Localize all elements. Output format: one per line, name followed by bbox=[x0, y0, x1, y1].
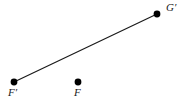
geometry-figure: F′ F G′ bbox=[0, 0, 189, 104]
figure-drawing-surface bbox=[0, 0, 189, 104]
point-marker-g-prime bbox=[154, 11, 161, 18]
point-label-g-prime: G′ bbox=[166, 2, 176, 13]
segment-f-prime-to-g-prime bbox=[14, 14, 157, 82]
point-label-f: F bbox=[74, 87, 81, 98]
point-marker-f bbox=[75, 79, 82, 86]
point-label-f-prime: F′ bbox=[8, 87, 17, 98]
point-marker-f-prime bbox=[11, 79, 18, 86]
